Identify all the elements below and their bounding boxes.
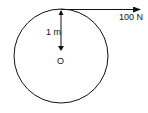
diagram-canvas: 1 m O 100 N xyxy=(0,0,148,113)
radius-label: 1 m xyxy=(46,27,61,37)
radius-arrow-top-head xyxy=(59,10,64,15)
center-label: O xyxy=(57,56,64,66)
force-label: 100 N xyxy=(119,12,143,22)
